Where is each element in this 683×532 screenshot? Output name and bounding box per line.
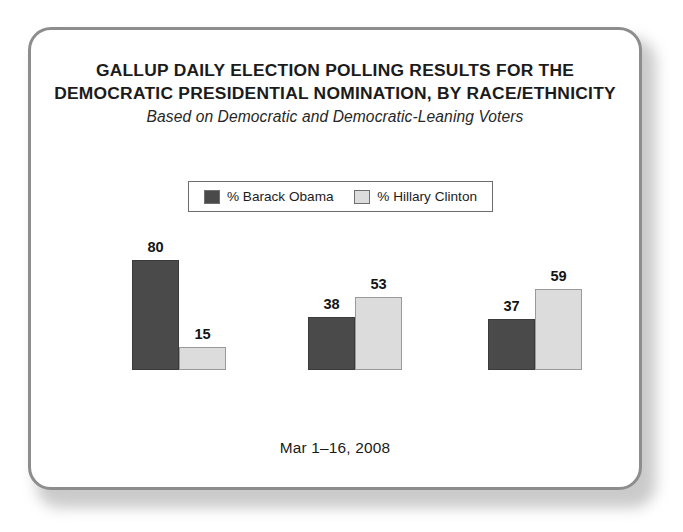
legend-item-label: % Barack Obama: [227, 189, 334, 204]
bar-group-non-hispanic-whites: 38 53: [305, 235, 405, 370]
bar-value-label: 53: [370, 276, 386, 292]
bar-obama-hispanic-whites[interactable]: 37: [488, 319, 535, 370]
bar-group-hispanic-whites: 37 59: [485, 235, 585, 370]
chart-card: GALLUP DAILY ELECTION POLLING RESULTS FO…: [28, 27, 642, 490]
bar-value-label: 80: [147, 239, 163, 255]
bar-clinton-blacks[interactable]: 15: [179, 347, 226, 370]
square-swatch-icon: [354, 190, 370, 204]
chart-footer-date: Mar 1–16, 2008: [31, 439, 639, 457]
legend-item-clinton[interactable]: % Hillary Clinton: [354, 189, 477, 204]
bar-clinton-hispanic-whites[interactable]: 59: [535, 289, 582, 370]
chart-screenshot: GALLUP DAILY ELECTION POLLING RESULTS FO…: [0, 0, 683, 532]
title-block: GALLUP DAILY ELECTION POLLING RESULTS FO…: [31, 59, 639, 126]
chart-legend: % Barack Obama % Hillary Clinton: [188, 181, 493, 212]
bar-group-blacks: 80 15: [129, 235, 229, 370]
chart-subtitle: Based on Democratic and Democratic-Leani…: [31, 108, 639, 126]
legend-item-obama[interactable]: % Barack Obama: [204, 189, 334, 204]
square-swatch-icon: [204, 190, 220, 204]
bar-obama-non-hispanic-whites[interactable]: 38: [308, 317, 355, 370]
bar-value-label: 38: [323, 296, 339, 312]
legend-item-label: % Hillary Clinton: [377, 189, 477, 204]
bar-clinton-non-hispanic-whites[interactable]: 53: [355, 297, 402, 370]
bar-value-label: 59: [550, 268, 566, 284]
bar-obama-blacks[interactable]: 80: [132, 260, 179, 370]
chart-title-line-1: GALLUP DAILY ELECTION POLLING RESULTS FO…: [31, 59, 639, 82]
bar-value-label: 37: [503, 298, 519, 314]
bar-value-label: 15: [194, 326, 210, 342]
chart-title-line-2: DEMOCRATIC PRESIDENTIAL NOMINATION, BY R…: [31, 82, 639, 105]
plot-area: 80 15 Blacks 38 53: [53, 235, 621, 370]
